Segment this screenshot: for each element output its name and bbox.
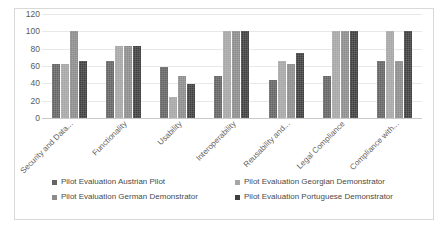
y-axis-labels: 020406080100120 — [14, 14, 40, 118]
x-axis-tick-label: Functionality — [92, 120, 129, 157]
bar[interactable] — [79, 61, 87, 118]
y-axis-tick-label: 60 — [31, 62, 40, 71]
legend-label: Pilot Evaluation German Demonstrator — [61, 193, 198, 201]
plot-area — [42, 14, 422, 118]
legend-label: Pilot Evaluation Austrian Pilot — [61, 178, 165, 186]
legend-swatch — [52, 180, 57, 185]
bar-group — [151, 14, 205, 118]
bar-groups — [42, 14, 422, 118]
y-axis-tick-label: 80 — [31, 44, 40, 53]
bar-group — [205, 14, 259, 118]
legend-item[interactable]: Pilot Evaluation Portuguese Demonstrator — [235, 193, 412, 201]
bar[interactable] — [296, 53, 304, 118]
legend-item[interactable]: Pilot Evaluation Georgian Demonstrator — [235, 178, 412, 186]
x-axis-tick-label: Compliance with... — [349, 120, 401, 172]
y-axis-tick-label: 120 — [26, 10, 40, 19]
bar[interactable] — [223, 31, 231, 118]
bar[interactable] — [377, 61, 385, 118]
y-axis-tick-label: 40 — [31, 79, 40, 88]
bar[interactable] — [350, 31, 358, 118]
x-axis-labels: Security and Data...FunctionalityUsabili… — [42, 118, 422, 174]
bar[interactable] — [404, 31, 412, 118]
bar-group — [259, 14, 313, 118]
x-axis-tick-label: Legal Compliance — [295, 120, 346, 171]
y-axis-tick-label: 100 — [26, 27, 40, 36]
bar[interactable] — [160, 67, 168, 118]
bar-chart: 020406080100120 Security and Data...Func… — [0, 0, 448, 233]
legend-swatch — [52, 195, 57, 200]
bar[interactable] — [332, 31, 340, 118]
x-axis-tick-label: Interoperability — [195, 120, 238, 163]
bar[interactable] — [124, 46, 132, 118]
bar[interactable] — [178, 76, 186, 118]
bar-group — [42, 14, 96, 118]
bar[interactable] — [323, 76, 331, 118]
legend-label: Pilot Evaluation Georgian Demonstrator — [244, 178, 385, 186]
bar-group — [96, 14, 150, 118]
chart-legend: Pilot Evaluation Austrian PilotPilot Eva… — [52, 178, 412, 201]
bar[interactable] — [269, 80, 277, 118]
legend-swatch — [235, 195, 240, 200]
bar-group — [368, 14, 422, 118]
bar[interactable] — [395, 61, 403, 118]
bar[interactable] — [52, 64, 60, 118]
bar[interactable] — [115, 46, 123, 118]
bar[interactable] — [241, 31, 249, 118]
bar[interactable] — [106, 61, 114, 118]
x-axis-tick-label: Reusability and... — [243, 120, 292, 169]
bar[interactable] — [133, 46, 141, 118]
bar-group — [313, 14, 367, 118]
bar[interactable] — [287, 64, 295, 118]
y-axis-tick-label: 0 — [35, 114, 40, 123]
bar[interactable] — [61, 64, 69, 118]
legend-label: Pilot Evaluation Portuguese Demonstrator — [244, 193, 393, 201]
bar[interactable] — [187, 84, 195, 118]
bar[interactable] — [70, 31, 78, 118]
bar[interactable] — [386, 31, 394, 118]
bar[interactable] — [232, 31, 240, 118]
legend-item[interactable]: Pilot Evaluation German Demonstrator — [52, 193, 229, 201]
bar[interactable] — [169, 97, 177, 118]
x-axis-tick-label: Usability — [156, 120, 183, 147]
legend-swatch — [235, 180, 240, 185]
legend-item[interactable]: Pilot Evaluation Austrian Pilot — [52, 178, 229, 186]
bar[interactable] — [278, 61, 286, 118]
bar[interactable] — [214, 76, 222, 118]
bar[interactable] — [341, 31, 349, 118]
y-axis-tick-label: 20 — [31, 96, 40, 105]
